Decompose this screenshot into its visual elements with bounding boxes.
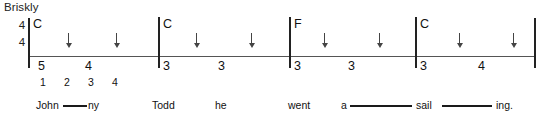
fret-number-m2-1: 3 [163,59,170,73]
strum-down-arrow-m1-2 [112,33,121,51]
fret-number-m2-2: 3 [218,59,225,73]
sheet-music-staff: Briskly 4 4 C C F C 5 4 3 3 3 3 3 4 1 2 … [0,0,548,117]
barline-opening [28,18,30,68]
strum-down-arrow-m3-1 [320,33,329,51]
lyric-extender-sail [442,105,492,107]
fret-number-m1-1: 5 [38,59,45,73]
strum-down-arrow-m2-1 [192,33,201,51]
barline-3 [415,17,417,68]
beat-count-2: 2 [64,76,70,88]
barline-1 [158,17,160,68]
strum-down-arrow-m3-2 [375,33,384,51]
time-signature: 4 4 [15,17,29,51]
beat-count-3: 3 [88,76,94,88]
lyric-syllable-went: went [288,99,310,111]
lyric-syllable-ing: ing. [496,99,513,111]
strum-down-arrow-m2-2 [247,33,256,51]
lyric-syllable-ny: ny [88,99,99,111]
fret-number-m3-2: 3 [348,59,355,73]
beat-count-1: 1 [40,76,46,88]
chord-symbol-measure-4: C [420,17,429,31]
staff-line [28,56,535,57]
fret-number-m3-1: 3 [294,59,301,73]
lyric-syllable-john: John [36,99,59,111]
lyric-syllable-a: a [341,99,347,111]
time-signature-denominator: 4 [15,34,29,51]
time-signature-numerator: 4 [15,17,29,34]
fret-number-m1-2: 4 [85,59,92,73]
lyric-syllable-todd: Todd [152,99,175,111]
chord-symbol-measure-3: F [294,17,302,31]
lyric-extender-a [350,105,412,107]
strum-down-arrow-m4-2 [509,33,518,51]
tempo-marking: Briskly [4,1,39,13]
chord-symbol-measure-1: C [33,17,42,31]
strum-down-arrow-m1-1 [64,33,73,51]
fret-number-m4-1: 3 [420,59,427,73]
barline-final [534,18,536,68]
lyric-syllable-he: he [215,99,227,111]
strum-down-arrow-m4-1 [455,33,464,51]
beat-count-4: 4 [112,76,118,88]
lyric-syllable-sail: sail [416,99,432,111]
barline-2 [289,17,291,68]
fret-number-m4-2: 4 [478,59,485,73]
chord-symbol-measure-2: C [163,17,172,31]
lyric-extender-john [63,105,87,107]
